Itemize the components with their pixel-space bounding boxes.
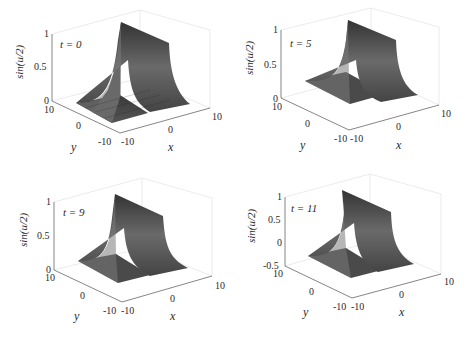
x-tick--10: -10 — [351, 302, 364, 312]
surface-plot — [0, 168, 236, 337]
x-tick-10: 10 — [444, 277, 454, 287]
y-tick-10: 10 — [44, 105, 54, 115]
x-tick-0: 0 — [399, 290, 404, 300]
x-axis-label: x — [170, 311, 175, 321]
subplot-t11: 1 0.5 0 -0.5 sin(u/2) t = 11 10 0 -10 y … — [236, 168, 472, 336]
z-axis-label: sin(u/2) — [17, 213, 29, 247]
y-tick--10: -10 — [333, 302, 346, 312]
subplot-t9: 1 0.5 0 sin(u/2) t = 9 10 0 -10 y -10 0 … — [0, 168, 236, 336]
x-tick--10: -10 — [121, 306, 134, 316]
y-tick-0: 0 — [76, 121, 81, 131]
x-tick-0: 0 — [168, 125, 173, 135]
subplot-t5: 1 0.5 0 sin(u/2) t = 5 10 0 -10 y -10 0 … — [236, 0, 472, 168]
z-tick-0.5: 0.5 — [268, 215, 281, 225]
y-axis-label: y — [71, 142, 76, 152]
z-tick-0.5: 0.5 — [264, 60, 277, 70]
x-axis-label: x — [399, 307, 404, 317]
y-axis-label: y — [300, 140, 305, 150]
y-tick--10: -10 — [98, 137, 111, 147]
z-axis-label: sin(u/2) — [13, 45, 25, 79]
z-tick-1: 1 — [44, 29, 49, 39]
y-tick-10: 10 — [45, 273, 55, 283]
y-tick-0: 0 — [309, 287, 314, 297]
y-tick-0: 0 — [305, 119, 310, 129]
x-axis-label: x — [168, 142, 173, 152]
time-label: t = 0 — [60, 38, 81, 50]
subplot-t0: 1 0.5 0 sin(u/2) t = 0 10 0 -10 y -10 0 … — [0, 0, 236, 168]
x-tick-10: 10 — [215, 281, 225, 291]
time-label: t = 5 — [290, 37, 311, 49]
z-tick-1: 1 — [46, 197, 51, 207]
y-tick-0: 0 — [80, 291, 85, 301]
time-label: t = 11 — [291, 202, 317, 214]
x-tick-0: 0 — [396, 122, 401, 132]
x-axis-label: x — [396, 140, 401, 150]
z-axis-label: sin(u/2) — [245, 209, 257, 243]
y-axis-label: y — [303, 307, 308, 317]
y-tick--10: -10 — [334, 134, 347, 144]
z-tick-0: 0 — [277, 238, 282, 248]
z-tick-1: 1 — [273, 25, 278, 35]
z-axis-label: sin(u/2) — [243, 41, 255, 75]
x-tick-10: 10 — [212, 112, 222, 122]
y-tick-10: 10 — [273, 269, 283, 279]
x-tick--10: -10 — [121, 137, 134, 147]
y-axis-label: y — [74, 311, 79, 321]
x-tick--10: -10 — [350, 134, 363, 144]
time-label: t = 9 — [63, 206, 84, 218]
z-tick-0.5: 0.5 — [37, 231, 50, 241]
x-tick-10: 10 — [441, 109, 451, 119]
y-tick--10: -10 — [103, 306, 116, 316]
z-tick-0.5: 0.5 — [34, 62, 47, 72]
surface-plot — [0, 0, 236, 168]
y-tick-10: 10 — [272, 102, 282, 112]
x-tick-0: 0 — [170, 294, 175, 304]
z-tick-1: 1 — [277, 192, 282, 202]
